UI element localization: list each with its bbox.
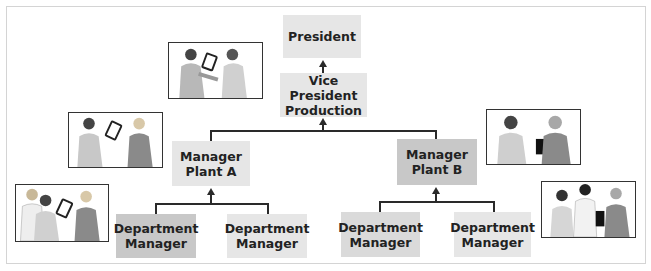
photo-dept-a [15,184,109,242]
node-label-line2: Manager [236,236,298,251]
node-label-line1: Department [225,221,310,236]
people-tablet-illustration-icon [69,113,162,167]
people-tablet-illustration-icon [169,43,262,98]
connector [210,130,437,132]
node-label-line2: Manager [350,235,412,250]
node-label-line2: Production [285,103,362,118]
node-manager-plant-a: Manager Plant A [172,141,250,186]
node-dept-manager-b2: Department Manager [454,212,531,257]
connector [493,201,495,212]
node-label-line2: Manager [462,235,524,250]
connector [210,130,212,141]
node-label: President [288,29,356,44]
node-dept-manager-a1: Department Manager [116,214,196,258]
node-president: President [283,15,361,58]
node-label-line1: Department [338,220,423,235]
node-label-line1: Department [450,220,535,235]
people-laptop-illustration-icon [542,182,635,237]
photo-plant-b [486,109,581,165]
people-laptop-illustration-icon [487,110,580,164]
node-label-line2: Plant A [186,164,237,179]
node-vp-production: Vice President Production [280,73,367,117]
connector [379,201,495,203]
node-dept-manager-a2: Department Manager [227,214,307,258]
connector [155,203,157,214]
node-dept-manager-b1: Department Manager [341,212,420,257]
node-label-line1: Manager [180,149,242,164]
photo-dept-b [541,181,636,238]
node-label-line2: Plant B [412,162,463,177]
connector [379,201,381,212]
node-label-line1: Vice President [280,73,367,103]
node-label-line2: Manager [125,236,187,251]
node-label-line1: Manager [406,147,468,162]
connector [155,203,269,205]
connector [435,130,437,139]
node-manager-plant-b: Manager Plant B [397,139,477,185]
node-label-line1: Department [114,221,199,236]
photo-plant-a [68,112,163,168]
connector [267,203,269,214]
people-tablet-illustration-icon [16,185,108,241]
photo-vp-meeting [168,42,263,99]
